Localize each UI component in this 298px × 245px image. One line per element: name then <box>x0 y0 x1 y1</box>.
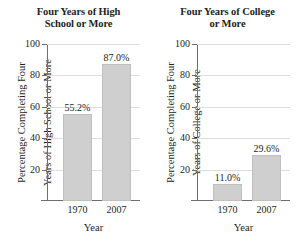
plot-area: 20 40 60 80 100 1 <box>197 44 290 201</box>
tick-mark <box>42 138 47 139</box>
x-tick-label: 1970 <box>218 205 238 215</box>
tick-mark <box>192 75 197 76</box>
x-axis-title: Year <box>47 222 140 233</box>
y-tick-label: 80 <box>180 70 190 80</box>
y-axis-title-line-1: Percentage Completing Four <box>164 44 177 201</box>
y-axis-title-line-1: Percentage Completing Four <box>15 44 28 201</box>
y-tick-label: 80 <box>30 70 40 80</box>
chart-panel-high-school: Four Years of High School or More Percen… <box>0 0 149 245</box>
y-tick-label: 60 <box>30 102 40 112</box>
tick-mark <box>42 107 47 108</box>
chart-title: Four Years of High School or More <box>8 6 149 29</box>
gridline <box>197 107 290 108</box>
bar-2007[interactable]: 87.0% 2007 <box>102 64 131 201</box>
x-tick-label: 2007 <box>107 205 127 215</box>
bar-1970[interactable]: 11.0% 1970 <box>213 184 242 201</box>
bar-value-label: 11.0% <box>215 173 240 183</box>
tick-mark <box>192 44 197 45</box>
bar-value-label: 87.0% <box>104 53 130 63</box>
tick-mark <box>42 75 47 76</box>
tick-mark <box>192 138 197 139</box>
chart-title-line-2: School or More <box>8 18 149 30</box>
tick-mark <box>192 170 197 171</box>
gridline <box>197 138 290 139</box>
chart-title-line-1: Four Years of High <box>8 6 149 18</box>
tick-mark <box>42 170 47 171</box>
y-tick-label: 20 <box>30 165 40 175</box>
y-axis-line <box>197 44 198 201</box>
two-bar-charts-figure: Four Years of High School or More Percen… <box>0 0 298 245</box>
gridline <box>197 44 290 45</box>
gridline <box>197 75 290 76</box>
tick-mark <box>42 44 47 45</box>
chart-title: Four Years of College or More <box>157 6 298 29</box>
plot-area: 20 40 60 80 100 <box>47 44 140 201</box>
x-axis-title: Year <box>197 222 290 233</box>
chart-title-line-2: or More <box>157 18 298 30</box>
y-axis-title: Percentage Completing Four Years of High… <box>2 44 30 201</box>
y-tick-label: 100 <box>25 39 40 49</box>
x-tick-label: 2007 <box>257 205 277 215</box>
tick-mark <box>192 107 197 108</box>
y-tick-label: 40 <box>180 133 190 143</box>
y-tick-label: 60 <box>180 102 190 112</box>
y-axis-line <box>47 44 48 201</box>
chart-title-line-1: Four Years of College <box>157 6 298 18</box>
y-axis-title: Percentage Completing Four Years of Coll… <box>151 44 179 201</box>
bar-2007[interactable]: 29.6% 2007 <box>252 155 281 202</box>
gridline <box>47 44 140 45</box>
bar-value-label: 29.6% <box>254 144 280 154</box>
bar-value-label: 55.2% <box>65 103 91 113</box>
chart-panel-college: Four Years of College or More Percentage… <box>149 0 298 245</box>
y-tick-label: 100 <box>175 39 190 49</box>
bar-1970[interactable]: 55.2% 1970 <box>63 114 92 201</box>
y-tick-label: 20 <box>180 165 190 175</box>
x-tick-label: 1970 <box>68 205 88 215</box>
y-tick-label: 40 <box>30 133 40 143</box>
